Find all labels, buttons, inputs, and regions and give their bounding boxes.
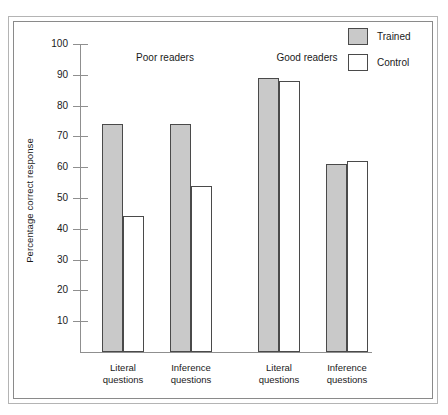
x-category-label-4-line-2: questions	[304, 374, 390, 386]
legend-label-trained: Trained	[377, 31, 411, 42]
y-tick-label-70: 70	[34, 131, 68, 141]
legend-swatch-trained-icon	[348, 28, 368, 45]
legend-item-trained: Trained	[348, 28, 411, 45]
chart-legend: Trained Control	[348, 28, 411, 80]
legend-item-control: Control	[348, 54, 411, 71]
x-axis-line	[80, 352, 372, 353]
bar-control-3	[347, 161, 368, 352]
bar-trained-0	[102, 124, 123, 352]
y-tick-80	[73, 106, 88, 107]
bar-trained-2	[258, 78, 279, 352]
y-tick-label-60: 60	[34, 162, 68, 172]
y-tick-label-100: 100	[34, 39, 68, 49]
bar-control-2	[279, 81, 300, 352]
y-tick-label-80: 80	[34, 101, 68, 111]
x-category-label-2: Inferencequestions	[148, 362, 234, 385]
x-category-label-4: Inferencequestions	[304, 362, 390, 385]
y-tick-label-30: 30	[34, 255, 68, 265]
bar-trained-3	[326, 164, 347, 352]
y-tick-label-20: 20	[34, 285, 68, 295]
y-tick-30	[73, 260, 88, 261]
bar-chart: 100908070605040302010 Percentage correct…	[0, 0, 448, 415]
bar-control-1	[191, 186, 212, 352]
y-tick-100	[73, 44, 88, 45]
x-category-label-2-line-2: questions	[148, 374, 234, 386]
bar-control-0	[123, 216, 144, 352]
bar-trained-1	[170, 124, 191, 352]
y-tick-label-50: 50	[34, 193, 68, 203]
y-tick-50	[73, 198, 88, 199]
x-category-label-4-line-1: Inference	[304, 362, 390, 374]
y-tick-40	[73, 229, 88, 230]
y-tick-70	[73, 136, 88, 137]
y-tick-20	[73, 290, 88, 291]
legend-swatch-control-icon	[348, 54, 368, 71]
y-tick-label-10: 10	[34, 316, 68, 326]
y-tick-label-40: 40	[34, 224, 68, 234]
y-tick-10	[73, 321, 88, 322]
y-tick-90	[73, 75, 88, 76]
y-tick-label-90: 90	[34, 70, 68, 80]
group-label-1: Poor readers	[105, 52, 225, 63]
y-tick-60	[73, 167, 88, 168]
legend-label-control: Control	[377, 57, 409, 68]
x-category-label-2-line-1: Inference	[148, 362, 234, 374]
y-axis-title: Percentage correct response	[24, 106, 35, 296]
